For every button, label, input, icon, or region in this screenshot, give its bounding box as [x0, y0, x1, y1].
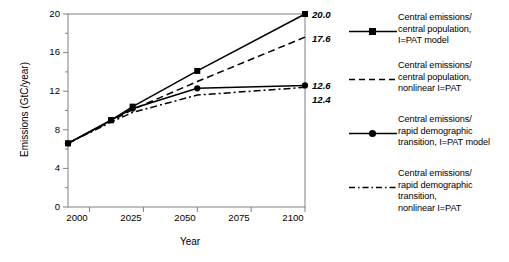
dashed-line-icon	[348, 72, 398, 85]
legend-label-3: Central emissions/ rapid demographic tra…	[398, 168, 472, 214]
solid-circle-line-icon	[348, 126, 398, 139]
emissions-projection-figure: Emissions (GtC/year) Year 20 16 12 8 4 0…	[0, 0, 509, 262]
y-tick-label-8: 8	[38, 124, 60, 135]
x-tick-label-2025: 2025	[111, 212, 151, 223]
chart-legend: Central emissions/ central population, I…	[348, 8, 506, 258]
x-axis-title: Year	[150, 236, 230, 247]
y-tick-label-12: 12	[38, 85, 60, 96]
y-tick-label-4: 4	[38, 162, 60, 173]
x-tick-label-2075: 2075	[219, 212, 259, 223]
y-axis-title: Emissions (GtC/year)	[19, 50, 30, 170]
legend-label-0: Central emissions/ central population, I…	[398, 12, 472, 47]
end-label-series-3: 12.4	[312, 94, 331, 105]
x-tick-label-2050: 2050	[165, 212, 205, 223]
legend-entry-rapid-transition-ipat: Central emissions/ rapid demographic tra…	[348, 114, 506, 149]
y-tick-label-0: 0	[38, 201, 60, 212]
x-tick-label-2000: 2000	[57, 212, 97, 223]
dashdot-line-icon	[348, 180, 398, 193]
legend-entry-central-population-nonlinear: Central emissions/ central population, n…	[348, 60, 506, 95]
legend-label-2: Central emissions/ rapid demographic tra…	[398, 114, 490, 149]
x-tick-label-2100: 2100	[273, 212, 313, 223]
end-label-series-2: 12.6	[312, 80, 331, 91]
end-label-series-0: 20.0	[312, 9, 331, 20]
legend-label-1: Central emissions/ central population, n…	[398, 60, 472, 95]
legend-entry-central-population-ipat: Central emissions/ central population, I…	[348, 12, 506, 47]
end-label-series-1: 17.6	[312, 33, 331, 44]
solid-square-line-icon	[348, 24, 398, 37]
y-tick-label-20: 20	[38, 8, 60, 19]
legend-entry-rapid-transition-nonlinear: Central emissions/ rapid demographic tra…	[348, 168, 506, 214]
y-tick-label-16: 16	[38, 46, 60, 57]
